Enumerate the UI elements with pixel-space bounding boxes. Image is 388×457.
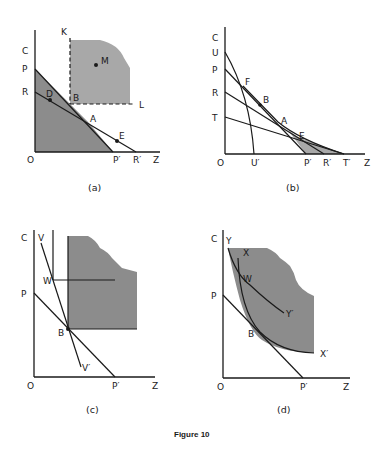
label-P: P [212, 65, 218, 75]
axis-label-c: C [22, 46, 28, 56]
label-P: P [211, 291, 217, 301]
label-O: O [27, 381, 34, 391]
curve-UU-prime [225, 52, 254, 154]
label-R: R [22, 87, 28, 97]
axis-label-z: Z [152, 381, 158, 391]
label-Y: Y [225, 236, 232, 246]
label-X-prime: X′ [320, 349, 328, 359]
label-R-prime: R′ [133, 155, 141, 165]
axis-label-c: C [212, 33, 218, 43]
label-P-prime: P′ [300, 382, 307, 392]
label-W: W [243, 274, 252, 284]
panel-caption-c: (c) [86, 404, 99, 415]
line-RR-prime [225, 92, 324, 154]
label-B: B [263, 95, 269, 105]
point-M [94, 63, 98, 67]
axis-label-z: Z [153, 155, 159, 165]
label-U: U [212, 48, 219, 58]
label-B: B [248, 329, 254, 339]
shaded-region-above-B [68, 236, 137, 329]
shaded-region [228, 248, 314, 353]
label-M: M [101, 56, 109, 66]
panel-caption-a: (a) [88, 182, 101, 193]
axis-label-c: C [211, 234, 217, 244]
label-V-prime: V′ [82, 363, 90, 373]
line-PP-prime [225, 69, 306, 154]
panel-d: C Y X W Y′ P B X′ O P′ Z (d) [211, 230, 350, 415]
curve-frontier [243, 86, 344, 154]
panel-caption-b: (b) [286, 182, 299, 193]
label-P-prime: P′ [113, 155, 120, 165]
label-R-prime: R′ [323, 158, 331, 168]
label-V: V [38, 233, 45, 243]
axis-label-c: C [21, 233, 27, 243]
figure-caption: Figure 10 [174, 430, 210, 439]
label-O: O [217, 158, 224, 168]
label-P: P [21, 289, 27, 299]
label-O: O [217, 382, 224, 392]
label-F: F [245, 77, 250, 87]
point-B [66, 327, 70, 331]
panel-caption-d: (d) [277, 404, 290, 415]
label-A: A [281, 116, 288, 126]
point-B [258, 103, 262, 107]
label-E: E [119, 131, 125, 141]
panel-a: C K P R M D B L A E O P′ R′ Z (a) [22, 27, 160, 193]
label-P: P [22, 64, 28, 74]
label-Y-prime: Y′ [285, 309, 294, 319]
label-B: B [58, 328, 64, 338]
label-A: A [90, 114, 97, 124]
figure-10: C K P R M D B L A E O P′ R′ Z (a) C U P … [0, 0, 388, 457]
label-T: T [211, 113, 218, 123]
label-R: R [212, 88, 218, 98]
panel-c: C V W P B V′ O P′ Z (c) [21, 230, 158, 415]
axis-label-z: Z [364, 158, 370, 168]
label-L: L [139, 100, 144, 110]
label-T-prime: T′ [342, 158, 351, 168]
panel-b: C U P R T F B A E O U′ P′ R′ T′ Z (b) [211, 27, 370, 193]
label-P-prime: P′ [112, 381, 119, 391]
label-W: W [43, 276, 52, 286]
axis-label-z: Z [343, 382, 349, 392]
label-U-prime: U′ [251, 158, 260, 168]
label-O: O [27, 155, 34, 165]
label-K: K [61, 27, 68, 37]
label-E: E [299, 131, 305, 141]
label-X: X [243, 248, 249, 258]
label-B: B [73, 93, 79, 103]
label-D: D [46, 89, 53, 99]
label-P-prime: P′ [304, 158, 311, 168]
